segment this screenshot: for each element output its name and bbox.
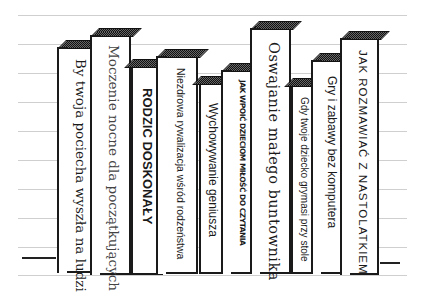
book-title: Moczenie nocne dla początkujących <box>106 45 122 291</box>
book-title: Gry i zabawy bez komputera <box>325 76 339 228</box>
book-title: Niezdrowa rywalizacja wśród rodzeństwa <box>175 68 187 259</box>
shelf-edge-left <box>22 257 56 259</box>
book-moczenie-nocne[interactable]: Moczenie nocne dla początkujących <box>97 35 131 275</box>
book-title: RODZIC DOSKONAŁY <box>140 88 155 225</box>
book-side <box>90 35 100 275</box>
book-title: JAK ROZMAWIAĆ Z NASTOLATKIEM <box>357 50 369 275</box>
book-side <box>340 38 350 275</box>
book-niezdrowa-rywalizacja[interactable]: Niezdrowa rywalizacja wśród rodzeństwa <box>163 56 198 274</box>
shelf-edge-right <box>380 262 400 264</box>
book-title: By twoja pociecha wyszła na ludzi <box>73 59 89 292</box>
ruled-line <box>18 15 407 16</box>
book-side <box>57 47 67 273</box>
book-side <box>311 60 321 274</box>
book-oswajanie-buntownika[interactable]: Oswajanie małego buntownika <box>257 28 291 274</box>
book-side <box>250 28 260 274</box>
book-title: Wychowywanie geniusza <box>206 103 220 237</box>
book-title: Oswajanie małego buntownika <box>266 42 282 281</box>
book-jak-rozmawiac[interactable]: JAK ROZMAWIAĆ Z NASTOLATKIEM <box>347 38 379 275</box>
book-title: Gdy twoje dziecko grymasi przy stole <box>299 97 310 262</box>
book-side <box>156 56 166 274</box>
book-side <box>221 70 231 274</box>
book-title: JAK WPOIĆ DZIECIOM MIŁOŚĆ DO CZYTANIA <box>238 80 247 245</box>
